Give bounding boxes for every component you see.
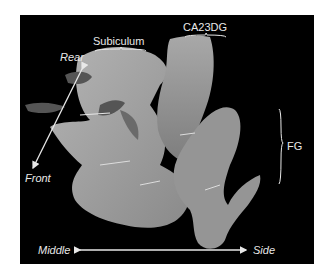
ca23dg-label: CA23DG bbox=[183, 21, 227, 33]
side-label: Side bbox=[253, 244, 275, 256]
fg-brace bbox=[279, 109, 283, 184]
subiculum-label: Subiculum bbox=[93, 35, 144, 47]
subiculum-brace bbox=[95, 47, 146, 51]
rear-label: Rear bbox=[60, 51, 84, 63]
ca23dg-brace bbox=[185, 33, 226, 37]
fg-label: FG bbox=[287, 140, 302, 152]
figure-panel: Subiculum CA23DG FG Rear Front Middle Si… bbox=[20, 15, 314, 264]
middle-label: Middle bbox=[38, 244, 70, 256]
front-label: Front bbox=[25, 172, 51, 184]
rear-front-arrow bbox=[33, 69, 82, 168]
